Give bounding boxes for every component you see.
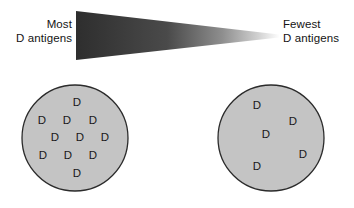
antigen-marker-d: D (64, 149, 72, 161)
antigen-marker-d: D (39, 149, 47, 161)
label-fewest-d-antigens: Fewest D antigens (283, 17, 354, 45)
antigen-marker-d: D (262, 128, 270, 140)
antigen-marker-d: D (89, 114, 97, 126)
antigen-marker-d: D (253, 160, 261, 172)
gradient-wedge-shape (76, 11, 279, 60)
antigen-marker-d: D (73, 167, 81, 179)
label-fewest-line1: Fewest (283, 17, 354, 31)
antigen-marker-d: D (89, 149, 97, 161)
antigen-marker-d: D (253, 99, 261, 111)
red-blood-cell-most-antigens: DDDDDDDDDDD (18, 81, 136, 199)
antigen-marker-d: D (76, 131, 84, 143)
red-blood-cell-fewest-antigens: DDDDD (214, 81, 332, 199)
label-most-line1: Most (0, 17, 72, 31)
cell-membrane-circle (218, 85, 324, 191)
antigen-marker-d: D (101, 131, 109, 143)
antigen-marker-d: D (38, 114, 46, 126)
antigen-marker-d: D (63, 114, 71, 126)
d-antigen-density-diagram: Most D antigens Fewest D antigens DDDDDD… (0, 0, 354, 208)
label-most-d-antigens: Most D antigens (0, 17, 72, 45)
antigen-marker-d: D (289, 115, 297, 127)
antigen-marker-d: D (73, 96, 81, 108)
antigen-marker-d: D (299, 148, 307, 160)
label-most-line2: D antigens (0, 31, 72, 45)
antigen-marker-d: D (51, 131, 59, 143)
label-fewest-line2: D antigens (283, 31, 354, 45)
